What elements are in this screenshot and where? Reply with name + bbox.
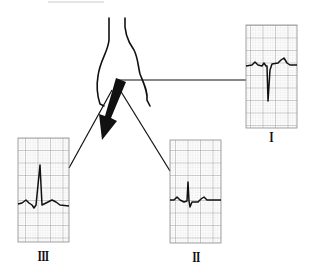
ecg-strip-lead-I bbox=[246, 25, 297, 128]
torso-outline bbox=[97, 18, 150, 106]
axis-arrow-icon bbox=[99, 78, 126, 140]
lead-label-III: III bbox=[32, 248, 55, 265]
lead-label-II: II bbox=[185, 249, 208, 266]
ecg-strip-lead-II bbox=[170, 140, 221, 243]
ecg-strip-lead-III bbox=[18, 138, 69, 242]
connector-lead-II bbox=[120, 90, 170, 171]
lead-label-I: I bbox=[260, 129, 283, 146]
